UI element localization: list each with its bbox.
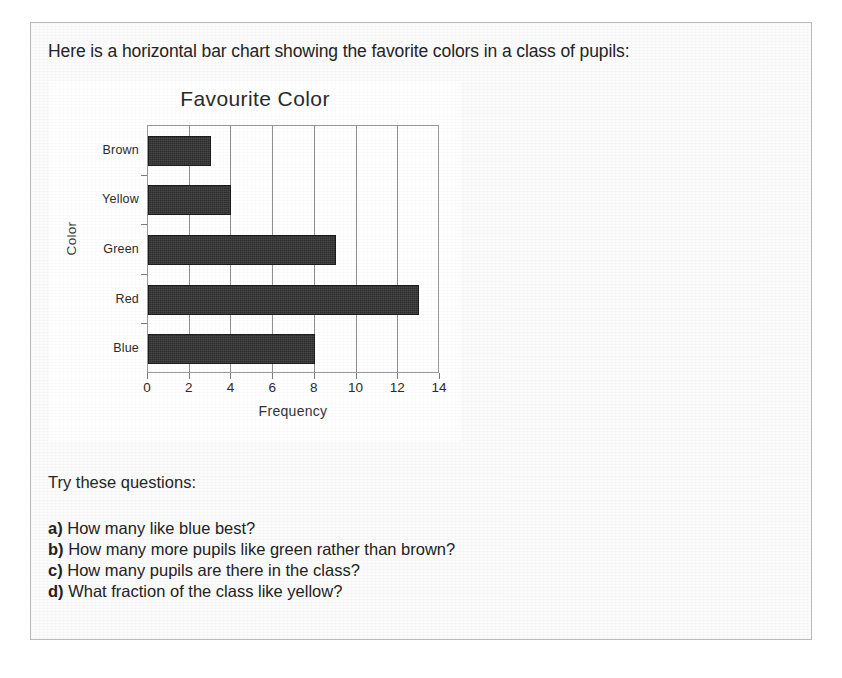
question-row: a) How many like blue best?: [48, 518, 788, 539]
chart-title: Favourite Color: [49, 87, 461, 111]
bar-brown: [148, 136, 211, 166]
question-text: How many pupils are there in the class?: [63, 561, 360, 579]
gridline: [397, 126, 398, 372]
x-axis-tick-label: 12: [382, 380, 412, 395]
x-axis-tick: [230, 373, 231, 379]
x-axis-tick-label: 0: [132, 380, 162, 395]
x-axis-tick: [189, 373, 190, 379]
y-axis-tick: [141, 274, 147, 275]
bar-blue: [148, 334, 315, 364]
category-label-green: Green: [75, 242, 139, 256]
category-label-brown: Brown: [75, 143, 139, 157]
intro-text: Here is a horizontal bar chart showing t…: [48, 41, 793, 62]
question-key: d): [48, 582, 64, 600]
x-axis-tick-label: 4: [215, 380, 245, 395]
gridline: [356, 126, 357, 372]
x-axis-tick-label: 6: [257, 380, 287, 395]
questions-intro: Try these questions:: [48, 473, 196, 492]
x-axis-tick: [272, 373, 273, 379]
bar-chart-figure: Favourite Color Color BrownYellowGreenRe…: [49, 81, 461, 441]
question-row: b) How many more pupils like green rathe…: [48, 539, 788, 560]
x-axis-tick: [314, 373, 315, 379]
x-axis-tick: [356, 373, 357, 379]
x-axis-tick: [147, 373, 148, 379]
question-row: c) How many pupils are there in the clas…: [48, 560, 788, 581]
y-axis-tick: [141, 224, 147, 225]
category-label-yellow: Yellow: [75, 192, 139, 206]
category-axis-labels: BrownYellowGreenRedBlue: [75, 125, 139, 373]
x-axis-title: Frequency: [147, 403, 439, 419]
question-text: How many like blue best?: [63, 519, 256, 537]
bar-red: [148, 285, 419, 315]
y-axis-tick: [141, 175, 147, 176]
x-axis-tick-label: 14: [424, 380, 454, 395]
question-key: b): [48, 540, 64, 558]
y-axis-tick: [141, 323, 147, 324]
question-key: c): [48, 561, 63, 579]
worksheet-panel: Here is a horizontal bar chart showing t…: [30, 22, 812, 640]
bar-yellow: [148, 185, 231, 215]
bar-green: [148, 235, 336, 265]
question-row: d) What fraction of the class like yello…: [48, 581, 788, 602]
plot-area: [147, 125, 439, 373]
x-axis-tick-label: 8: [299, 380, 329, 395]
category-label-blue: Blue: [75, 341, 139, 355]
x-axis-tick-label: 10: [341, 380, 371, 395]
question-text: What fraction of the class like yellow?: [64, 582, 343, 600]
x-axis-tick-label: 2: [174, 380, 204, 395]
category-label-red: Red: [75, 292, 139, 306]
x-axis-tick: [439, 373, 440, 379]
questions-list: a) How many like blue best?b) How many m…: [48, 518, 788, 602]
question-key: a): [48, 519, 63, 537]
x-axis-tick: [397, 373, 398, 379]
question-text: How many more pupils like green rather t…: [64, 540, 456, 558]
